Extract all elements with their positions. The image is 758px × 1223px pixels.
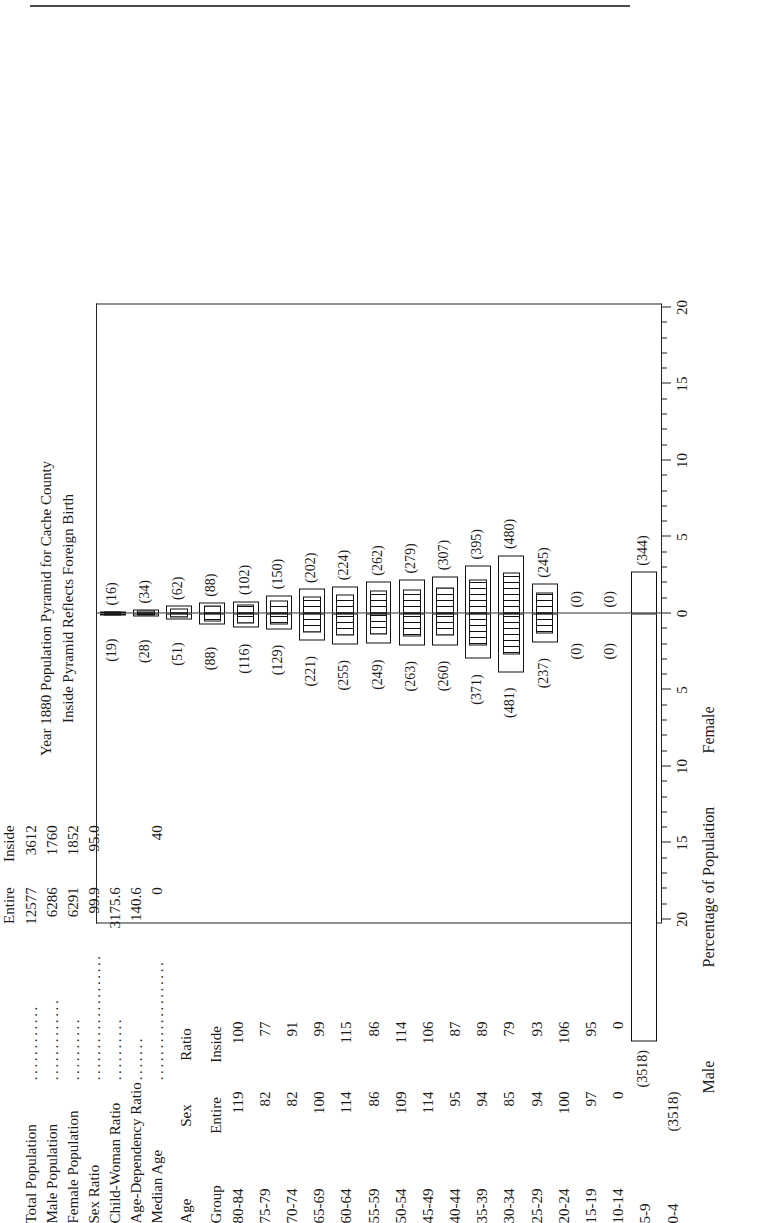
male-bar-inside [237,613,255,623]
table-row: 65-6910099 [306,1011,333,1223]
stats-header-entire: Entire [0,887,22,951]
female-value-label: (480) [502,518,518,548]
sex-ratio-inside-cell: 115 [333,1011,360,1077]
sex-ratio-inside-cell: 100 [225,1011,252,1077]
sex-ratio-entire-cell: 82 [252,1077,279,1153]
header-sex: Sex [169,1077,195,1153]
male-bar-inside [204,613,222,621]
sex-ratio-entire-cell: 97 [578,1077,605,1153]
x-axis-tick [662,887,667,888]
sex-ratio-entire-cell: 100 [306,1077,333,1153]
x-axis-tick [662,643,667,644]
x-axis-tick [662,704,667,705]
female-value-label: (0) [602,591,618,607]
male-value-label: (371) [469,674,485,704]
female-bar-inside [137,610,155,613]
stats-row-label: Sex Ratio [85,1082,106,1223]
x-axis-tick [662,505,667,506]
female-value-label: (150) [270,558,286,588]
sex-ratio-entire-cell: 119 [225,1077,252,1153]
table-header-row-2: Group Entire Inside [195,1011,225,1223]
male-bar-inside [270,613,288,624]
age-group-cell: 45-49 [415,1153,442,1223]
sex-ratio-entire-cell: 109 [388,1077,415,1153]
male-value-label: (28) [137,639,153,662]
sex-ratio-entire-cell: 94 [524,1077,551,1153]
female-bar-inside [503,572,521,613]
female-value-label: (395) [469,529,485,559]
header-group: Group [195,1153,225,1223]
figure-plate: Year 1880 Population Pyramid for Cache C… [0,0,758,1223]
x-axis-tick [662,872,667,873]
female-bar-inside [237,604,255,613]
x-axis-tick [662,352,667,353]
stats-row-label: Age-Dependency Ratio [127,1082,148,1223]
x-axis-tick [662,597,667,598]
table-row: 20-24100106 [551,1011,578,1223]
male-bar-inside [403,613,421,636]
male-bar-entire [631,613,657,1041]
sex-ratio-entire-cell: 82 [279,1077,306,1153]
table-row: 40-449587 [442,1011,469,1223]
male-value-label: (481) [502,687,518,717]
sex-ratio-inside-cell: 79 [496,1011,523,1077]
age-group-cell: 25-29 [524,1153,551,1223]
table-row: 80-84119100 [225,1011,252,1223]
axis-left-line [96,922,661,923]
female-bar-inside [170,608,188,613]
x-axis-tick [662,581,667,582]
header-age: Age [169,1153,195,1223]
population-pyramid-plot: 201510505101520 (19)(16)(28)(34)(51)(62)… [96,303,661,923]
sex-ratio-entire-cell: 114 [333,1077,360,1153]
stats-leader-dots: ....... [127,951,148,1082]
header-inside: Inside [195,1011,225,1077]
table-header-row-1: Age Sex Ratio [169,1011,195,1223]
male-bar-inside [303,613,321,632]
female-bar-inside [403,589,421,613]
age-group-cell: 0-4 [660,1153,687,1223]
sex-ratio-entire-cell: 114 [415,1077,442,1153]
table-row: 70-748291 [279,1011,306,1223]
sex-ratio-inside-cell: 91 [279,1011,306,1077]
x-axis-tick [662,811,667,812]
x-axis-tick [662,367,667,368]
x-axis-tick [662,658,667,659]
age-group-cell: 40-44 [442,1153,469,1223]
age-group-cell: 80-84 [225,1153,252,1223]
female-value-label: (344) [635,535,651,565]
x-axis-tick [662,306,671,307]
female-bar-inside [336,594,354,613]
sex-ratio-entire-cell: 95 [442,1077,469,1153]
x-axis-tick [662,551,667,552]
male-value-label: (221) [303,656,319,686]
female-value-label: (279) [403,543,419,573]
x-axis-tick-label: 15 [674,369,691,399]
x-axis-tick [662,750,667,751]
x-axis-tick [662,780,667,781]
age-group-cell: 50-54 [388,1153,415,1223]
table-row: 50-54109114 [388,1011,415,1223]
male-value-label: (237) [536,658,552,688]
x-axis-tick [662,903,667,904]
age-group-cell: 55-59 [360,1153,387,1223]
title-line-2: Inside Pyramid Reflects Foreign Birth [58,83,80,1133]
sex-ratio-inside-cell: 77 [252,1011,279,1077]
table-row: 55-598686 [360,1011,387,1223]
age-group-cell: 65-69 [306,1153,333,1223]
male-side-label: Male [700,1060,718,1093]
female-value-label: (224) [336,549,352,579]
male-bar-inside [370,613,388,634]
sex-ratio-inside-cell: 106 [551,1011,578,1077]
sex-ratio-inside-cell [660,1011,687,1077]
x-axis-tick [662,857,667,858]
x-axis-tick-label: 5 [674,675,691,705]
female-bar-inside [370,591,388,614]
male-value-label: (260) [436,660,452,690]
male-bar-inside [336,613,354,635]
female-value-label: (245) [536,547,552,577]
x-axis-tick [662,566,667,567]
male-bar-inside [536,613,554,633]
sex-ratio-entire-cell: 85 [496,1077,523,1153]
x-axis-tick-label: 20 [674,292,691,322]
header-entire: Entire [195,1077,225,1153]
